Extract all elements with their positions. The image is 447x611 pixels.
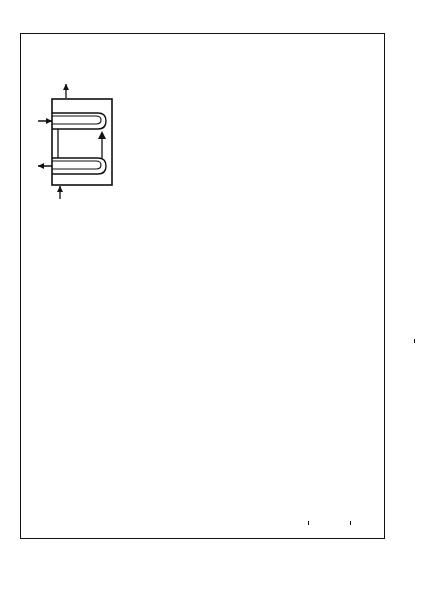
figure-page <box>0 0 447 611</box>
rotated-chart-stage <box>0 0 447 611</box>
x-axis-definition-numerator <box>414 339 415 343</box>
r-numerator <box>308 521 309 525</box>
r-definition-legend <box>300 521 315 525</box>
x-axis-definition <box>414 339 415 343</box>
r-ratio-legend <box>342 521 357 525</box>
x-axis-title <box>404 339 421 343</box>
heat-exchanger-inset <box>36 81 122 201</box>
r-ratio-fraction <box>350 521 351 525</box>
heat-exchanger-diagram <box>36 81 122 201</box>
r-definition-fraction <box>308 521 309 525</box>
solid-family-label <box>0 527 5 531</box>
r-ratio-numerator <box>350 521 351 525</box>
